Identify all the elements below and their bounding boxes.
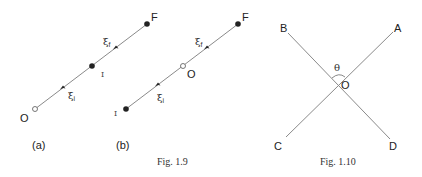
panel-label-b: (b) <box>116 139 129 151</box>
label-o: O <box>341 79 350 91</box>
label-o: O <box>187 68 196 80</box>
point-i-filled <box>89 63 95 69</box>
label-xi-f: ξf <box>103 36 111 48</box>
caption-fig-1-9: Fig. 1.9 <box>157 156 188 167</box>
fig-1-9-panel-b: I O F ξf ξi (b) <box>114 11 249 151</box>
label-c: C <box>274 140 282 152</box>
label-i: I <box>114 109 117 118</box>
label-f: F <box>242 11 249 23</box>
label-theta: θ <box>334 62 340 73</box>
label-xi-i: ξi <box>68 90 76 102</box>
label-b: B <box>280 22 287 34</box>
line-bd <box>288 33 390 139</box>
point-i-filled <box>123 106 129 112</box>
label-a: A <box>394 22 402 34</box>
label-d: D <box>389 140 397 152</box>
caption-fig-1-10: Fig. 1.10 <box>320 156 356 167</box>
point-f-filled <box>144 21 150 27</box>
fig-1-9-panel-a: O I F ξf ξi (a) <box>20 11 158 151</box>
label-i: I <box>101 70 104 79</box>
label-o: O <box>20 112 29 124</box>
point-o-open <box>33 107 38 112</box>
point-f-filled <box>235 21 241 27</box>
point-o-open <box>181 64 186 69</box>
label-xi-i: ξi <box>157 92 165 104</box>
fig-1-10: B A C D O θ <box>274 22 402 152</box>
angle-arc-icon <box>332 75 345 78</box>
figures-canvas: O I F ξf ξi (a) I O F ξf ξi (b) Fig. 1.9… <box>0 0 422 177</box>
label-f: F <box>151 11 158 23</box>
panel-label-a: (a) <box>32 139 45 151</box>
label-xi-f: ξf <box>195 36 203 48</box>
